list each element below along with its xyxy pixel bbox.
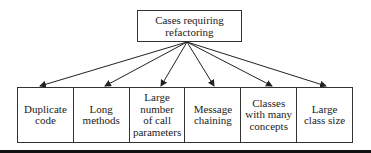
root-label-line1: Cases requiring — [155, 14, 224, 26]
case-large-number-of-call-parameters: Large number of call parameters — [130, 88, 186, 142]
case-label: Large — [133, 92, 181, 104]
case-label: methods — [83, 115, 120, 127]
arrow-to-classes-concepts — [187, 42, 272, 86]
case-label: class size — [304, 115, 345, 127]
case-label: chaining — [194, 115, 233, 127]
arrow-to-large-class — [187, 42, 326, 86]
case-classes-with-many-concepts: Classes with many concepts — [241, 88, 297, 142]
cases-row: Duplicate code Long methods Large number… — [17, 87, 353, 143]
case-message-chaining: Message chaining — [185, 88, 241, 142]
case-large-class-size: Large class size — [297, 88, 352, 142]
case-duplicate-code: Duplicate code — [18, 88, 74, 142]
case-long-methods: Long methods — [74, 88, 130, 142]
case-label: of call — [133, 115, 181, 127]
root-node-cases-requiring-refactoring: Cases requiring refactoring — [137, 10, 242, 42]
root-label-line2: refactoring — [155, 26, 224, 38]
bottom-rule-divider — [0, 150, 371, 153]
case-label: code — [24, 115, 67, 127]
case-label: parameters — [133, 127, 181, 139]
arrow-to-long-methods — [105, 42, 187, 86]
case-label: concepts — [245, 121, 292, 133]
